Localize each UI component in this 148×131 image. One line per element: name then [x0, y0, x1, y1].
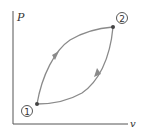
x-axis-label: v [130, 118, 136, 129]
point-1-label: 1 [24, 107, 30, 117]
pv-diagram: P v 1 2 [0, 0, 148, 131]
lower-arrow-icon [94, 68, 101, 77]
y-axis-label: P [16, 11, 25, 24]
point-2-label: 2 [119, 14, 125, 24]
point-2-marker [111, 25, 115, 29]
upper-path [37, 27, 113, 104]
lower-path [37, 27, 113, 104]
point-1-marker [35, 102, 39, 106]
